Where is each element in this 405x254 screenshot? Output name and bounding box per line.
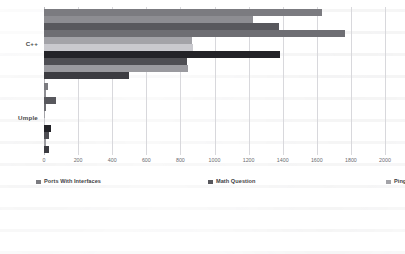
x-tick-label: 2000 bbox=[379, 157, 391, 163]
x-tick-label: 1600 bbox=[311, 157, 323, 163]
bar bbox=[44, 51, 280, 58]
bar bbox=[44, 146, 49, 153]
x-tick-label: 800 bbox=[176, 157, 185, 163]
bar bbox=[44, 111, 45, 118]
bar bbox=[44, 139, 46, 146]
bar bbox=[44, 97, 56, 104]
bar bbox=[44, 125, 51, 132]
category-label-umple: Umple bbox=[0, 114, 38, 121]
horizontal-bar-chart: C++ Umple 020040060080010001200140016001… bbox=[0, 0, 405, 254]
x-tick-label: 0 bbox=[43, 157, 46, 163]
bar bbox=[44, 83, 48, 90]
bar bbox=[44, 72, 129, 79]
x-tick-label: 600 bbox=[142, 157, 151, 163]
bar bbox=[44, 118, 45, 125]
bar bbox=[44, 30, 345, 37]
x-tick-label: 1800 bbox=[345, 157, 357, 163]
gridline bbox=[351, 7, 352, 155]
bar bbox=[44, 37, 192, 44]
x-tick-label: 1000 bbox=[209, 157, 221, 163]
bar bbox=[44, 132, 49, 139]
bar bbox=[44, 58, 187, 65]
bar bbox=[44, 90, 46, 97]
gridline bbox=[385, 7, 386, 155]
x-tick-label: 1400 bbox=[277, 157, 289, 163]
plot-wrapper: C++ Umple 020040060080010001200140016001… bbox=[0, 0, 405, 165]
legend-item[interactable]: PingPong bbox=[386, 176, 405, 188]
x-tick-label: 1200 bbox=[243, 157, 255, 163]
bar bbox=[44, 23, 279, 30]
bar bbox=[44, 44, 193, 51]
legend-item[interactable]: Ports With Interfaces bbox=[36, 176, 208, 188]
legend-swatch-icon bbox=[386, 180, 391, 185]
x-tick-label: 200 bbox=[74, 157, 83, 163]
bar bbox=[44, 16, 253, 23]
bar bbox=[44, 9, 322, 16]
legend-item[interactable]: Math Question bbox=[208, 176, 386, 188]
legend-swatch-icon bbox=[208, 180, 213, 185]
category-label-cpp: C++ bbox=[0, 40, 38, 47]
legend-label: PingPong bbox=[394, 179, 405, 185]
legend-swatch-icon bbox=[36, 180, 41, 185]
plot-area bbox=[44, 7, 385, 155]
bar bbox=[44, 65, 188, 72]
x-tick-label: 400 bbox=[108, 157, 117, 163]
bar bbox=[44, 104, 46, 111]
legend-label: Math Question bbox=[216, 179, 256, 185]
legend-label: Ports With Interfaces bbox=[44, 179, 101, 185]
chart-legend: Ports With InterfacesMath QuestionPingPo… bbox=[36, 176, 386, 242]
